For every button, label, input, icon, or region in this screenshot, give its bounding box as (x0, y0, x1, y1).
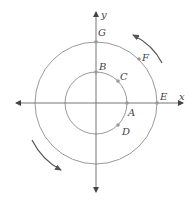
label-c: C (120, 71, 128, 82)
label-b: B (98, 61, 106, 72)
point-b (94, 70, 98, 74)
label-g: G (98, 27, 106, 38)
point-f (137, 57, 141, 61)
label-e: E (159, 91, 168, 102)
label-a: A (127, 107, 135, 118)
point-e (155, 101, 159, 105)
point-d (116, 123, 120, 127)
circle-diagram: x y A B C D E F G (0, 0, 192, 202)
label-f: F (141, 52, 150, 63)
label-d: D (121, 126, 130, 137)
point-g (94, 40, 98, 44)
y-axis-label: y (100, 9, 107, 20)
rotation-arrow-lower-left-icon (32, 140, 61, 170)
point-a (125, 101, 129, 105)
x-axis-label: x (179, 91, 185, 102)
